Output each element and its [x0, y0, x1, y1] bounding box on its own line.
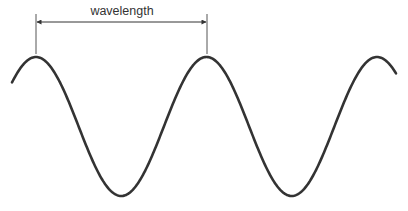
wavelength-annotation: wavelength: [36, 4, 207, 54]
wavelength-label: wavelength: [89, 4, 153, 18]
wavelength-diagram: wavelength: [0, 0, 408, 211]
sine-wave: [12, 57, 396, 196]
